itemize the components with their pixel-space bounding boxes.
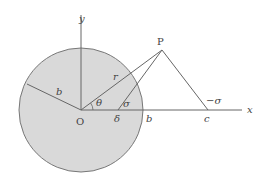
line-p-c <box>162 50 208 110</box>
point-p-label: P <box>157 36 164 47</box>
sigma-label: σ <box>123 98 131 109</box>
axis-b-label: b <box>146 113 152 124</box>
diagram-canvas: y x O P b r θ σ δ b c −σ <box>0 0 268 178</box>
origin-label: O <box>76 116 84 127</box>
x-axis-label: x <box>247 104 253 115</box>
y-axis-label: y <box>78 13 85 24</box>
delta-label: δ <box>114 113 120 124</box>
neg-sigma-label: −σ <box>206 95 222 106</box>
radius-b-label: b <box>56 86 62 97</box>
point-c-label: c <box>204 113 210 124</box>
theta-label: θ <box>96 97 102 108</box>
diagram: y x O P b r θ σ δ b c −σ <box>0 0 268 178</box>
